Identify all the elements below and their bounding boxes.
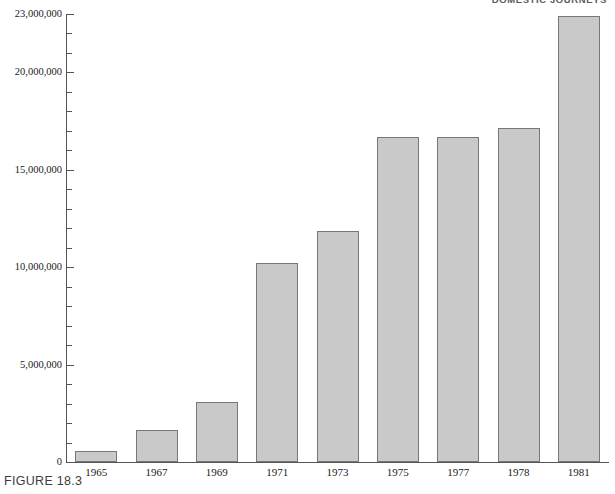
y-axis-major-tick <box>66 170 74 171</box>
y-axis-minor-tick <box>66 189 72 190</box>
bar <box>558 16 600 462</box>
y-axis-minor-tick <box>66 111 72 112</box>
y-axis-minor-tick <box>66 131 72 132</box>
bar <box>317 231 359 462</box>
y-axis-tick-label-text: 10,000,000 <box>0 261 62 272</box>
y-axis-tick-label-text: 23,000,000 <box>0 8 62 19</box>
y-axis-major-tick <box>66 14 74 15</box>
y-axis-tick-label-text: 5,000,000 <box>0 359 62 370</box>
bar <box>437 137 479 462</box>
y-axis-tick-label-text: 20,000,000 <box>0 66 62 77</box>
y-axis-minor-tick <box>66 228 72 229</box>
y-axis-minor-tick <box>66 209 72 210</box>
y-axis-tick-label-text: 0 <box>0 456 62 467</box>
bar <box>256 263 298 462</box>
y-axis-minor-tick <box>66 287 72 288</box>
y-axis-tick-label-text: 15,000,000 <box>0 164 62 175</box>
x-axis-tick-label: 1977 <box>428 466 488 478</box>
bar <box>196 402 238 462</box>
x-axis-tick-label: 1967 <box>127 466 187 478</box>
y-axis-minor-tick <box>66 92 72 93</box>
y-axis-line <box>66 14 67 463</box>
x-axis-line <box>66 462 609 463</box>
x-axis-tick-label: 1971 <box>247 466 307 478</box>
y-axis-minor-tick <box>66 326 72 327</box>
y-axis-minor-tick <box>66 248 72 249</box>
bar-chart: 05,000,00010,000,00015,000,00020,000,000… <box>0 0 615 470</box>
y-axis-minor-tick <box>66 150 72 151</box>
x-axis-tick-label: 1981 <box>549 466 609 478</box>
bar <box>136 430 178 462</box>
y-axis-minor-tick <box>66 33 72 34</box>
y-axis-major-tick <box>66 267 74 268</box>
bar <box>377 137 419 462</box>
y-axis-major-tick <box>66 365 74 366</box>
y-axis-minor-tick <box>66 443 72 444</box>
y-axis-minor-tick <box>66 306 72 307</box>
x-axis-tick-label: 1978 <box>489 466 549 478</box>
x-axis-tick-label: 1973 <box>308 466 368 478</box>
bar <box>75 451 117 462</box>
y-axis-minor-tick <box>66 404 72 405</box>
y-axis-minor-tick <box>66 53 72 54</box>
y-axis-minor-tick <box>66 384 72 385</box>
y-axis-minor-tick <box>66 423 72 424</box>
y-axis-minor-tick <box>66 345 72 346</box>
y-axis-major-tick <box>66 72 74 73</box>
x-axis-tick-label: 1969 <box>187 466 247 478</box>
bar <box>498 128 540 462</box>
y-axis-major-tick <box>66 462 74 463</box>
figure-caption: FIGURE 18.3 <box>4 474 82 488</box>
x-axis-tick-label: 1975 <box>368 466 428 478</box>
